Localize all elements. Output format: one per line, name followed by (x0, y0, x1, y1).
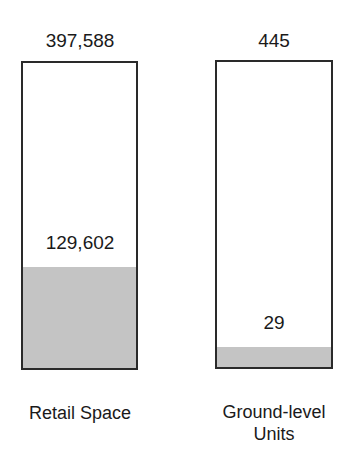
retail-bar-fill (23, 267, 136, 368)
units-category-line2: Units (199, 423, 349, 445)
retail-category-label: Retail Space (5, 402, 155, 424)
units-category-line1: Ground-level (199, 401, 349, 423)
retail-part-label: 129,602 (10, 232, 150, 254)
units-part-label: 29 (204, 312, 344, 334)
units-total-label: 445 (204, 30, 344, 52)
retail-total-label: 397,588 (10, 30, 150, 52)
units-category-label: Ground-level Units (199, 401, 349, 445)
retail-bar (21, 61, 138, 370)
units-bar-fill (217, 347, 331, 367)
